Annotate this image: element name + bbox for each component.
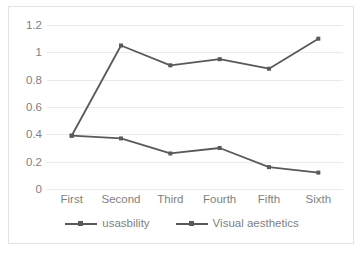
legend-label: Visual aesthetics: [213, 217, 299, 229]
plot-area: [47, 25, 343, 189]
x-axis-tick-label: Fifth: [258, 193, 280, 205]
chart-legend: usasbilityVisual aesthetics: [9, 217, 355, 229]
y-axis: 00.20.40.60.811.2: [9, 25, 42, 189]
y-axis-tick-label: 0.2: [12, 157, 42, 168]
data-point-marker: [218, 57, 222, 61]
data-point-marker: [316, 171, 320, 175]
legend-item-1[interactable]: usasbility: [65, 217, 149, 229]
chart-container: 00.20.40.60.811.2 FirstSecondThirdFourth…: [8, 6, 354, 244]
series-2: [70, 134, 321, 175]
series-1: [70, 37, 321, 138]
data-point-marker: [70, 134, 74, 138]
x-axis: FirstSecondThirdFourthFifthSixth: [47, 193, 343, 211]
y-axis-tick-label: 0.8: [12, 75, 42, 86]
legend-item-2[interactable]: Visual aesthetics: [176, 217, 299, 229]
x-axis-tick-label: First: [60, 193, 82, 205]
data-point-marker: [168, 151, 172, 155]
data-point-marker: [168, 63, 172, 67]
y-axis-tick-label: 1: [12, 47, 42, 58]
data-point-marker: [218, 146, 222, 150]
x-axis-tick-label: Second: [101, 193, 140, 205]
data-point-marker: [316, 37, 320, 41]
y-axis-tick-label: 0.6: [12, 102, 42, 113]
legend-label: usasbility: [102, 217, 149, 229]
series-layer: [47, 25, 343, 189]
y-axis-tick-label: 1.2: [12, 20, 42, 31]
gridline: [47, 189, 343, 190]
x-axis-tick-label: Sixth: [306, 193, 332, 205]
data-point-marker: [267, 67, 271, 71]
data-point-marker: [119, 44, 123, 48]
x-axis-tick-label: Third: [157, 193, 183, 205]
legend-line-marker-icon: [65, 219, 97, 228]
y-axis-tick-label: 0: [12, 184, 42, 195]
series-line: [72, 136, 319, 173]
y-axis-tick-label: 0.4: [12, 129, 42, 140]
x-axis-tick-label: Fourth: [203, 193, 236, 205]
series-line: [72, 39, 319, 136]
legend-line-marker-icon: [176, 219, 208, 228]
data-point-marker: [267, 165, 271, 169]
data-point-marker: [119, 136, 123, 140]
